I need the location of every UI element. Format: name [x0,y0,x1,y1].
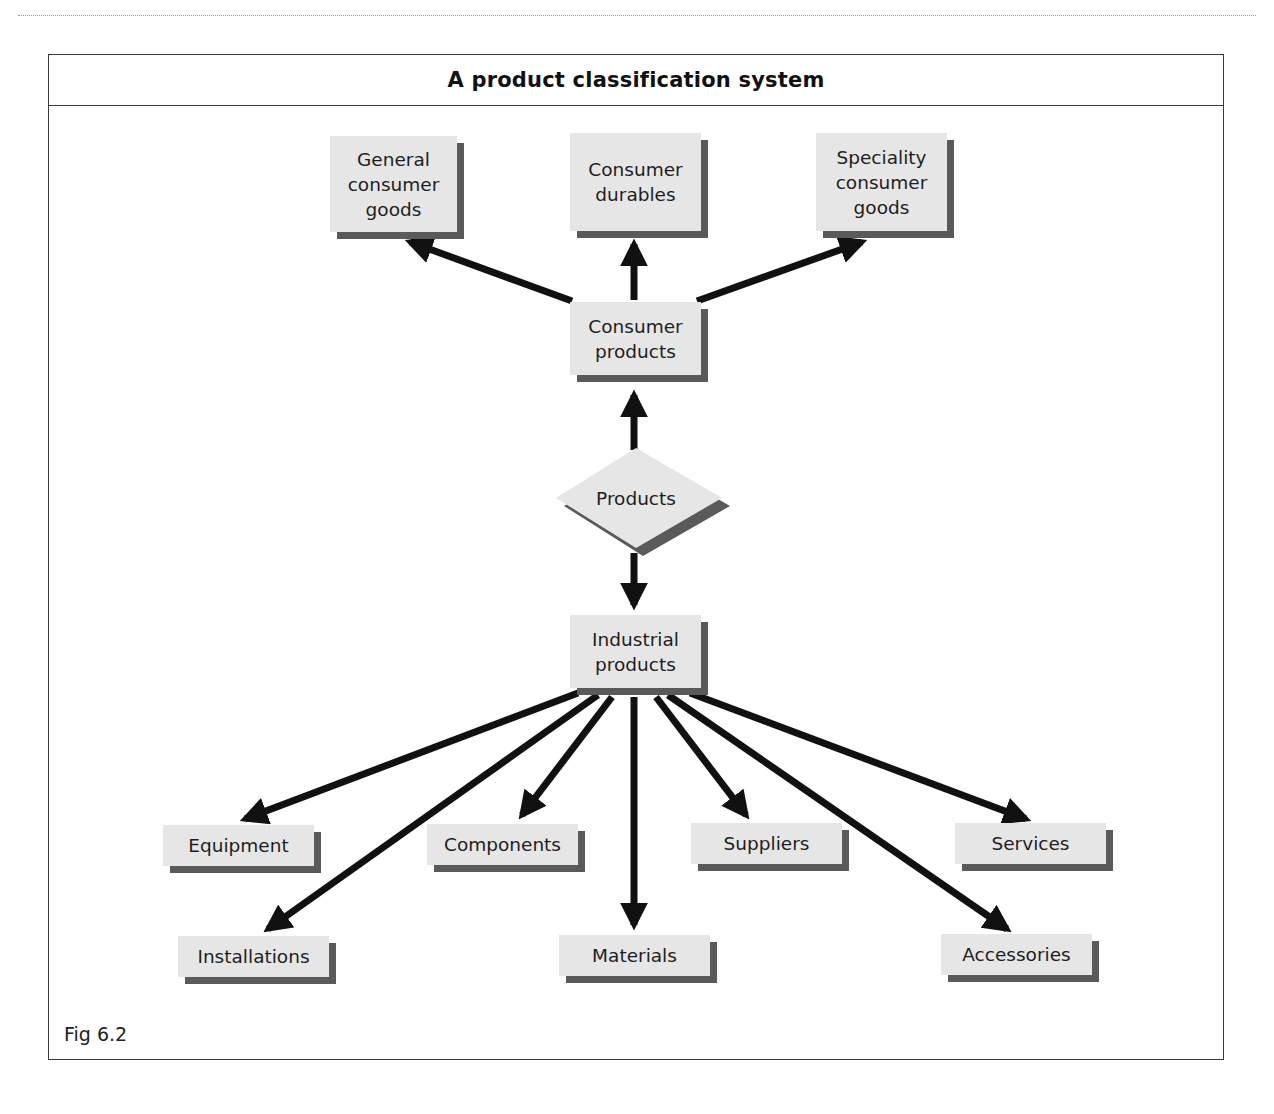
node-label: Services [955,823,1106,864]
node-label: Installations [178,936,329,977]
node-installations: Installations [178,936,329,977]
node-label: Consumer products [570,302,701,375]
node-consumer-products: Consumer products [570,302,701,375]
node-components: Components [427,824,578,865]
arrow-industrial-to-equipment [245,693,578,819]
arrow-consumer-to-general [410,242,572,301]
node-accessories: Accessories [941,934,1092,975]
node-suppliers: Suppliers [691,823,842,864]
node-speciality-consumer-goods: Speciality consumer goods [816,133,947,231]
arrow-industrial-to-services [690,693,1026,819]
node-services: Services [955,823,1106,864]
node-materials: Materials [559,935,710,976]
node-label: Components [427,824,578,865]
node-general-consumer-goods: General consumer goods [330,136,457,232]
node-label: Equipment [163,825,314,866]
node-industrial-products: Industrial products [570,615,701,688]
arrow-industrial-to-installations [268,695,598,929]
node-label: Suppliers [691,823,842,864]
node-equipment: Equipment [163,825,314,866]
node-consumer-durables: Consumer durables [570,133,701,231]
node-products: Products [556,448,722,556]
node-label: Accessories [941,934,1092,975]
arrow-consumer-to-speciality [697,242,862,301]
node-label: Products [556,448,716,548]
arrow-industrial-to-accessories [668,695,1007,929]
node-label: Industrial products [570,615,701,688]
node-label: Consumer durables [570,133,701,231]
node-label: Speciality consumer goods [816,133,947,231]
node-label: Materials [559,935,710,976]
node-label: General consumer goods [330,136,457,232]
